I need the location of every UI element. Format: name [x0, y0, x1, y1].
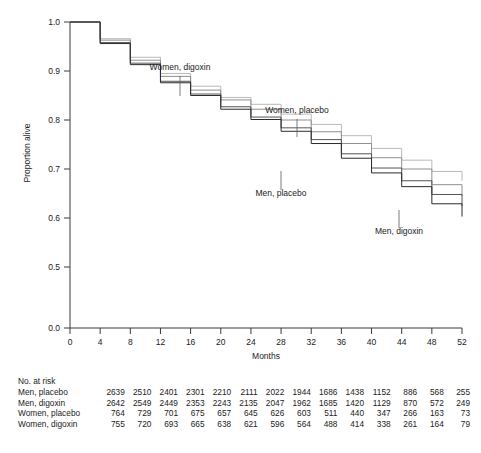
risk-table-title: No. at risk — [18, 376, 473, 386]
x-tick-label: 28 — [276, 337, 286, 347]
risk-cell: 568 — [417, 387, 444, 398]
risk-cell: 488 — [311, 419, 338, 430]
y-tick-label: 1.0 — [48, 17, 60, 27]
x-axis-title: Months — [252, 351, 280, 361]
risk-row-label: Women, digoxin — [18, 419, 98, 430]
axis-titles: MonthsProportion alive — [22, 123, 280, 361]
risk-cell: 1129 — [364, 398, 391, 409]
risk-cell: 1686 — [311, 387, 338, 398]
x-tick-label: 32 — [306, 337, 316, 347]
x-tick-label: 4 — [98, 337, 103, 347]
risk-cell: 2639 — [98, 387, 125, 398]
x-tick-label: 12 — [156, 337, 166, 347]
risk-cell: 255 — [444, 387, 470, 398]
risk-cell: 73 — [444, 408, 470, 419]
risk-table-row: Women, placebo76472970167565764562660351… — [18, 408, 470, 419]
risk-cell: 675 — [178, 408, 205, 419]
risk-cell: 645 — [231, 408, 258, 419]
risk-cell: 1685 — [311, 398, 338, 409]
x-tick-label: 24 — [246, 337, 256, 347]
risk-cell: 347 — [364, 408, 391, 419]
risk-cell: 2401 — [151, 387, 178, 398]
risk-cell: 665 — [178, 419, 205, 430]
curve-label-women-placebo: Women, placebo — [265, 105, 329, 115]
risk-cell: 2243 — [205, 398, 232, 409]
risk-cell: 163 — [417, 408, 444, 419]
y-tick-label: 0.0 — [48, 323, 60, 333]
x-tick-label: 8 — [128, 337, 133, 347]
x-tick-label: 40 — [367, 337, 377, 347]
risk-cell: 249 — [444, 398, 470, 409]
risk-cell: 2111 — [231, 387, 258, 398]
risk-table-grid: Men, placebo2639251024012301221021112022… — [18, 387, 470, 430]
risk-cell: 2210 — [205, 387, 232, 398]
risk-cell: 2549 — [125, 398, 152, 409]
x-tick-label: 20 — [216, 337, 226, 347]
risk-cell: 414 — [337, 419, 364, 430]
risk-cell: 701 — [151, 408, 178, 419]
risk-cell: 572 — [417, 398, 444, 409]
risk-cell: 1420 — [337, 398, 364, 409]
x-tick-label: 48 — [427, 337, 437, 347]
y-tick-label: 0.5 — [48, 262, 60, 272]
risk-cell: 626 — [258, 408, 285, 419]
risk-cell: 870 — [391, 398, 418, 409]
risk-row-label: Women, placebo — [18, 408, 98, 419]
risk-cell: 596 — [258, 419, 285, 430]
x-tick-label: 52 — [457, 337, 467, 347]
risk-cell: 764 — [98, 408, 125, 419]
risk-cell: 621 — [231, 419, 258, 430]
risk-cell: 440 — [337, 408, 364, 419]
survival-curve-women-placebo — [70, 22, 462, 181]
risk-cell: 338 — [364, 419, 391, 430]
risk-cell: 720 — [125, 419, 152, 430]
x-tick-label: 44 — [397, 337, 407, 347]
number-at-risk-table: No. at risk Men, placebo2639251024012301… — [18, 376, 473, 430]
risk-cell: 2022 — [258, 387, 285, 398]
risk-table-row: Women, digoxin75572069366563862159656448… — [18, 419, 470, 430]
risk-cell: 2449 — [151, 398, 178, 409]
risk-cell: 2642 — [98, 398, 125, 409]
plot-axes: 0.00.50.60.70.80.91.00481216202428323640… — [48, 17, 467, 347]
y-axis-title: Proportion alive — [22, 123, 32, 182]
risk-cell: 266 — [391, 408, 418, 419]
risk-cell: 638 — [205, 419, 232, 430]
risk-row-label: Men, digoxin — [18, 398, 98, 409]
risk-cell: 729 — [125, 408, 152, 419]
risk-cell: 1438 — [337, 387, 364, 398]
survival-curve-figure: 0.00.50.60.70.80.91.00481216202428323640… — [0, 0, 481, 453]
risk-table-row: Men, digoxin2642254924492353224321352047… — [18, 398, 470, 409]
risk-cell: 79 — [444, 419, 470, 430]
risk-cell: 2510 — [125, 387, 152, 398]
risk-table-row: Men, placebo2639251024012301221021112022… — [18, 387, 470, 398]
risk-cell: 2301 — [178, 387, 205, 398]
x-tick-label: 16 — [186, 337, 196, 347]
risk-cell: 886 — [391, 387, 418, 398]
y-tick-label: 0.8 — [48, 115, 60, 125]
y-tick-label: 0.6 — [48, 213, 60, 223]
risk-row-label: Men, placebo — [18, 387, 98, 398]
risk-cell: 603 — [284, 408, 311, 419]
risk-cell: 511 — [311, 408, 338, 419]
risk-cell: 2353 — [178, 398, 205, 409]
risk-cell: 1962 — [284, 398, 311, 409]
risk-cell: 657 — [205, 408, 232, 419]
risk-cell: 1152 — [364, 387, 391, 398]
y-tick-label: 0.7 — [48, 164, 60, 174]
risk-cell: 1944 — [284, 387, 311, 398]
risk-cell: 2047 — [258, 398, 285, 409]
risk-cell: 2135 — [231, 398, 258, 409]
x-tick-label: 36 — [337, 337, 347, 347]
risk-cell: 564 — [284, 419, 311, 430]
risk-cell: 755 — [98, 419, 125, 430]
y-tick-label: 0.9 — [48, 66, 60, 76]
x-tick-label: 0 — [68, 337, 73, 347]
risk-cell: 261 — [391, 419, 418, 430]
risk-cell: 164 — [417, 419, 444, 430]
curve-label-women-digoxin: Women, digoxin — [150, 62, 211, 72]
risk-cell: 693 — [151, 419, 178, 430]
